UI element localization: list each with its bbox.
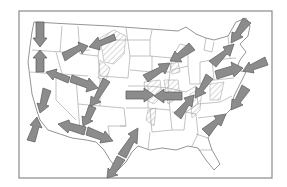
us-map-figure (0, 0, 287, 187)
hatch-michigan (170, 62, 180, 74)
map-canvas (0, 0, 287, 187)
